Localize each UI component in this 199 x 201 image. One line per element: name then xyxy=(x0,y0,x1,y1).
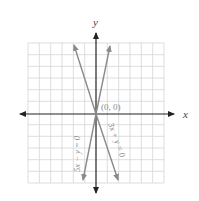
equation-label-5x-minus-y: 5x − y = 0 xyxy=(72,135,82,172)
coordinate-graph: y x (0, 0) 5x − y = 0 3x + y = 0 xyxy=(0,0,199,201)
origin-label: (0, 0) xyxy=(101,102,121,112)
y-axis-label: y xyxy=(92,16,98,28)
x-axis-label: x xyxy=(182,108,188,120)
